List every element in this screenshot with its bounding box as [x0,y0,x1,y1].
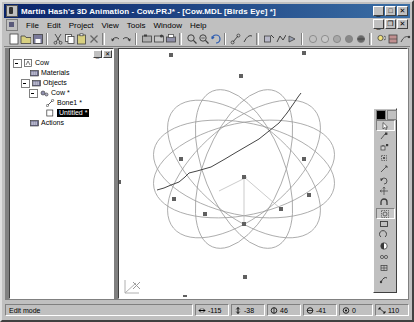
swatch-light-icon[interactable] [387,110,397,120]
decal-icon[interactable] [398,32,409,46]
delete-icon[interactable] [87,32,98,46]
tool-scale[interactable] [376,164,395,175]
document-icon[interactable] [6,19,18,31]
tree-expander-icon[interactable] [13,59,22,68]
render-all-icon[interactable] [152,32,163,46]
menu-item-window[interactable]: Window [149,21,185,30]
save-icon[interactable] [31,32,42,46]
mdi-minimize-button[interactable]: _ [373,19,384,29]
print-icon[interactable] [164,32,175,46]
mdi-restore-button[interactable]: ❐ [385,19,396,29]
tool-group[interactable] [376,153,395,164]
tool-extrude[interactable] [376,252,395,263]
zoom-icon[interactable] [197,32,208,46]
menu-item-tools[interactable]: Tools [123,21,150,30]
control-point[interactable] [302,51,306,55]
light-icon[interactable] [375,32,386,46]
tree-panel-controls: _ ✕ [93,50,112,58]
tool-rotate[interactable] [376,175,395,186]
control-point[interactable] [242,222,246,226]
mdi-close-button[interactable]: ✕ [397,19,408,29]
tool-add-point[interactable] [376,131,395,142]
tool-add-lock[interactable] [376,142,395,153]
ellipse-2[interactable] [144,75,344,264]
ellipse-1[interactable] [144,75,344,264]
camera-icon[interactable] [286,32,297,46]
tree-node[interactable]: Actions [13,118,111,128]
redo-icon[interactable] [120,32,131,46]
control-point[interactable] [242,175,246,179]
tool-select[interactable] [376,120,395,131]
tree-expander-icon[interactable] [29,89,38,98]
menu-item-project[interactable]: Project [65,21,98,30]
skeleton-icon[interactable] [262,32,273,46]
tree-node[interactable]: Cow [13,58,111,68]
open-icon[interactable] [19,32,30,46]
arrow-vertical-icon [234,307,242,314]
rotate-icon[interactable] [209,32,220,46]
tool-sphere[interactable] [376,241,395,252]
bone-line-3[interactable] [219,177,247,191]
undo-icon[interactable] [108,32,119,46]
muscle-mode-icon[interactable] [241,32,252,46]
menu-item-view[interactable]: View [98,21,123,30]
control-point[interactable] [302,157,306,161]
cut-icon[interactable] [51,32,62,46]
control-point[interactable] [179,157,183,161]
tree-node[interactable]: Untitled * [13,108,111,118]
tree-node[interactable]: Materials [13,68,111,78]
control-point[interactable] [203,212,207,216]
control-point[interactable] [119,180,121,184]
tree-node[interactable]: Bone1 * [13,98,111,108]
control-point[interactable] [239,74,243,78]
shade-flat-icon[interactable] [318,32,329,46]
action-icon[interactable] [274,32,285,46]
menu-item-edit[interactable]: Edit [43,21,65,30]
control-point[interactable] [169,53,173,57]
control-point[interactable] [279,207,283,211]
tool-magnet[interactable] [376,197,395,208]
control-points-group[interactable] [119,51,311,297]
close-button[interactable]: ✕ [397,6,408,16]
tool-bone-add[interactable] [376,274,395,285]
shade-tex-icon[interactable] [342,32,353,46]
paste-icon[interactable] [75,32,86,46]
tool-rect[interactable] [376,219,395,230]
shade-smooth-icon[interactable] [330,32,341,46]
project-tree[interactable]: CowMaterialsObjectsCow *Bone1 *Untitled … [13,58,111,128]
tool-circle[interactable] [376,230,395,241]
swatch-dark-icon[interactable] [376,110,386,120]
menu-item-help[interactable]: Help [186,21,210,30]
status-bar: Edit mode -115 -38 46 [5,303,409,317]
copy-icon[interactable] [63,32,74,46]
tree-node[interactable]: Cow * [13,88,111,98]
control-point[interactable] [307,193,311,197]
rotate-y-icon [306,307,314,314]
render-icon[interactable] [140,32,151,46]
minimize-button[interactable]: _ [373,6,384,16]
shade-wire-icon[interactable] [306,32,317,46]
ellipse-6[interactable] [175,76,312,262]
zoom-fit-icon[interactable] [185,32,196,46]
tool-translate[interactable] [376,186,395,197]
menu-item-file[interactable]: File [22,21,43,30]
new-icon[interactable] [7,32,18,46]
material-icon[interactable] [386,32,397,46]
tree-close-button[interactable]: ✕ [103,50,112,58]
control-point[interactable] [243,275,247,279]
shade-final-icon[interactable] [354,32,365,46]
bone-mode-icon[interactable] [229,32,240,46]
tree-node[interactable]: Objects [13,78,111,88]
tree-expander-icon[interactable] [21,79,30,88]
tool-lathe[interactable] [376,208,395,219]
maximize-button[interactable]: □ [385,6,396,16]
status-rotate-z: 0 [339,304,373,316]
status-rotate-z-value: 0 [352,307,356,314]
bone-line-2[interactable] [244,177,281,209]
control-point[interactable] [183,295,187,297]
control-point[interactable] [172,197,176,201]
tree-minimize-button[interactable]: _ [93,50,102,58]
birds-eye-viewport[interactable] [118,48,408,299]
tool-grid[interactable] [376,263,395,274]
ellipse-5[interactable] [175,76,312,262]
